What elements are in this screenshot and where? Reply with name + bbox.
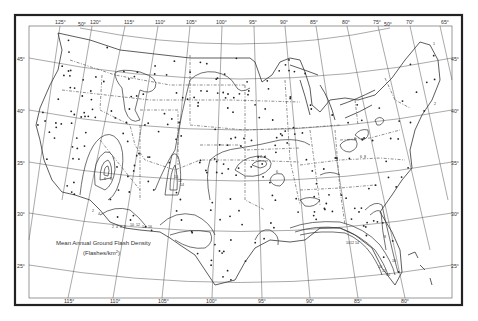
latitude-40 xyxy=(29,110,452,130)
station-dot xyxy=(336,157,338,159)
station-dot xyxy=(200,159,202,161)
station-dot xyxy=(395,186,397,188)
station-dot xyxy=(278,70,280,72)
latitude-30 xyxy=(29,213,452,232)
station-dot xyxy=(366,222,368,224)
units-text: (Flashes/km xyxy=(83,250,116,256)
map-title-line1: Mean Annual Ground Flash Density xyxy=(56,240,151,246)
lon-label-bottom-95: 95° xyxy=(258,298,266,304)
lon-label-120: 120° xyxy=(90,19,101,25)
station-dot xyxy=(316,183,318,185)
contour-label: 2 xyxy=(260,155,262,159)
station-dot xyxy=(74,87,76,89)
station-dot xyxy=(254,242,256,244)
station-dot xyxy=(222,276,224,278)
lat-label-left-30: 30° xyxy=(17,211,25,217)
station-dot xyxy=(129,108,131,110)
meridian-90 xyxy=(285,26,310,298)
station-dot xyxy=(92,108,94,110)
meridian-75 xyxy=(378,26,430,250)
station-dot xyxy=(304,73,306,75)
station-dot xyxy=(286,142,288,144)
map-title-line2: (Flashes/km2) xyxy=(83,249,120,256)
station-dot xyxy=(347,122,349,124)
station-dot xyxy=(73,193,75,195)
station-dot xyxy=(175,138,177,140)
station-dot xyxy=(106,47,108,49)
station-dot xyxy=(171,118,173,120)
station-dot xyxy=(230,198,232,200)
contour-label: 8 xyxy=(124,225,126,229)
station-dot xyxy=(200,90,202,92)
station-dot xyxy=(200,61,202,63)
station-dot xyxy=(142,93,144,95)
station-dot xyxy=(222,92,224,94)
station-dot xyxy=(280,133,282,135)
station-dot xyxy=(407,167,409,169)
station-dot xyxy=(210,264,212,266)
station-dot xyxy=(397,138,399,140)
lon-label-80: 80° xyxy=(342,19,350,25)
station-dot xyxy=(136,95,138,97)
station-dot xyxy=(154,73,156,75)
station-dot xyxy=(137,71,139,73)
station-dot xyxy=(382,222,384,224)
station-dot xyxy=(368,188,370,190)
station-dot xyxy=(248,90,250,92)
station-dot xyxy=(147,181,149,183)
station-dot xyxy=(227,168,229,170)
station-dot xyxy=(178,122,180,124)
station-dot xyxy=(42,112,44,114)
station-dot xyxy=(68,70,70,72)
station-dot xyxy=(323,168,325,170)
station-dot xyxy=(76,148,78,150)
station-dot xyxy=(356,104,358,106)
station-dot xyxy=(288,59,290,61)
station-dot xyxy=(94,116,96,118)
station-dot xyxy=(261,163,263,165)
station-dot xyxy=(270,222,272,224)
station-dot xyxy=(225,97,227,99)
lon-label-125: 125° xyxy=(55,19,66,25)
station-dot xyxy=(254,104,256,106)
meridian-70 xyxy=(410,26,448,200)
station-dot xyxy=(315,218,317,220)
station-dot xyxy=(151,229,153,231)
station-dot xyxy=(423,110,425,112)
station-dot xyxy=(147,156,149,158)
contour-label: 6 xyxy=(104,177,106,181)
station-dot xyxy=(240,145,242,147)
station-dot xyxy=(211,202,213,204)
station-dot xyxy=(130,96,132,98)
station-dot xyxy=(230,239,232,241)
station-dot xyxy=(247,94,249,96)
station-dot xyxy=(223,163,225,165)
lon-label-105: 105° xyxy=(186,19,197,25)
lat-label-right-30: 30° xyxy=(451,211,459,217)
lat-label-right-40: 40° xyxy=(451,108,459,114)
station-dot xyxy=(351,218,353,220)
station-dot xyxy=(227,270,229,272)
station-dot xyxy=(61,65,63,67)
station-dot xyxy=(239,93,241,95)
station-dot xyxy=(169,162,171,164)
lon-label-bottom-85: 85° xyxy=(354,298,362,304)
station-dot xyxy=(235,174,237,176)
station-dot xyxy=(378,107,380,109)
station-dot xyxy=(392,240,394,242)
contour-label: 4 xyxy=(116,225,118,229)
station-dot xyxy=(147,122,149,124)
station-dot xyxy=(230,138,232,140)
latitude-50 xyxy=(80,28,390,44)
contour-label: 1 xyxy=(433,42,435,46)
graticule-meridians xyxy=(29,26,452,298)
station-dot xyxy=(426,81,428,83)
station-dot xyxy=(182,97,184,99)
station-dot xyxy=(230,279,232,281)
station-dot xyxy=(264,108,266,110)
station-dot xyxy=(197,105,199,107)
station-dot xyxy=(164,113,166,115)
station-dot xyxy=(297,211,299,213)
station-dot xyxy=(331,114,333,116)
station-dot xyxy=(176,92,178,94)
